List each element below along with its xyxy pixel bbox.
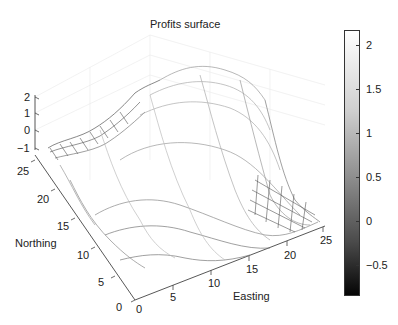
colorbar-tick: 0.5	[366, 172, 381, 183]
z-tick: 1	[24, 108, 30, 119]
axes	[35, 95, 325, 300]
x-tick: 25	[320, 235, 332, 246]
y-tick: 0	[116, 302, 122, 313]
surface-plot	[0, 0, 398, 325]
y-tick: 15	[57, 221, 69, 232]
x-tick: 15	[246, 264, 258, 275]
y-axis-label: Northing	[15, 237, 57, 249]
colorbar-tick: 2	[366, 40, 372, 51]
background-grid	[35, 35, 325, 200]
x-tick: 20	[284, 250, 296, 261]
x-tick: 5	[170, 292, 176, 303]
colorbar-tick-mark	[356, 45, 360, 46]
z-tick: 2	[24, 92, 30, 103]
z-tick: 0	[24, 125, 30, 136]
y-tick: 10	[77, 250, 89, 261]
x-tick: 0	[136, 304, 142, 315]
tick-marks	[31, 97, 323, 302]
y-tick: 20	[37, 194, 49, 205]
colorbar-tick-mark	[356, 89, 360, 90]
z-tick: −1	[17, 143, 30, 154]
surface-mesh	[48, 66, 320, 268]
colorbar-tick-mark	[356, 221, 360, 222]
colorbar-tick-mark	[356, 133, 360, 134]
y-tick: 5	[98, 277, 104, 288]
x-axis-label: Easting	[233, 290, 270, 302]
colorbar-tick: −0.5	[366, 260, 388, 271]
colorbar-tick-mark	[356, 177, 360, 178]
colorbar-tick: 1	[366, 128, 372, 139]
colorbar-tick: 1.5	[366, 84, 381, 95]
x-tick: 10	[208, 278, 220, 289]
y-tick: 25	[17, 166, 29, 177]
colorbar-tick: 0	[366, 216, 372, 227]
colorbar	[344, 30, 360, 296]
colorbar-tick-mark	[356, 265, 360, 266]
chart-title: Profits surface	[150, 18, 220, 30]
